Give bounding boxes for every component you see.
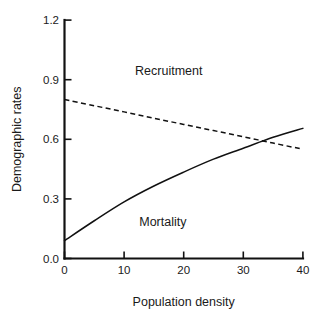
mortality-series-label: Mortality <box>139 215 187 229</box>
x-tick-label: 0 <box>61 264 67 276</box>
y-tick-label: 1.2 <box>43 14 59 26</box>
x-tick-label: 20 <box>177 264 190 276</box>
y-axis-title: Demographic rates <box>10 86 24 192</box>
x-axis-title: Population density <box>133 295 236 309</box>
y-tick-label: 0.0 <box>43 253 59 265</box>
recruitment-curve <box>65 100 303 150</box>
recruitment-series-label: Recruitment <box>135 64 203 78</box>
x-tick-label: 10 <box>118 264 131 276</box>
y-tick-label: 0.6 <box>43 133 59 145</box>
y-tick-label: 0.9 <box>43 74 59 86</box>
x-tick-label: 40 <box>297 264 310 276</box>
chart-figure: 0.0 0.3 0.6 0.9 1.2 0 10 20 30 40 Recrui… <box>0 0 315 324</box>
y-axis-tick-labels: 0.0 0.3 0.6 0.9 1.2 <box>43 14 59 264</box>
demographic-rates-chart: 0.0 0.3 0.6 0.9 1.2 0 10 20 30 40 Recrui… <box>0 0 315 324</box>
x-axis-tick-labels: 0 10 20 30 40 <box>61 264 309 276</box>
y-tick-label: 0.3 <box>43 193 59 205</box>
x-tick-label: 30 <box>237 264 250 276</box>
